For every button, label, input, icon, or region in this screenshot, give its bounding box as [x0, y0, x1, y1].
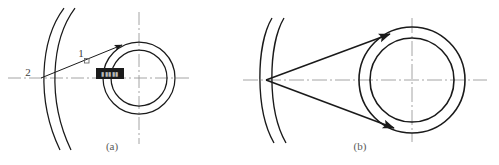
- figure-canvas: 1 2 ▮▮▮▮▮ (a) (b): [0, 0, 499, 165]
- panel-b: (b): [243, 18, 487, 153]
- panel-b-caption: (b): [354, 140, 367, 153]
- panel-b-arc-inner: [272, 18, 286, 143]
- panel-a-arc-outer: [44, 8, 64, 150]
- panel-a-arc-inner: [55, 8, 75, 150]
- panel-a-redacted-text: ▮▮▮▮▮: [101, 71, 119, 77]
- panel-a-reference-label-1: 1: [78, 47, 84, 59]
- technical-figure: 1 2 ▮▮▮▮▮ (a) (b): [0, 0, 499, 165]
- panel-a-caption: (a): [106, 140, 119, 153]
- panel-b-tangent-line-upper: [266, 34, 390, 80]
- panel-b-tangent-line-lower: [266, 80, 394, 128]
- panel-a: 1 2 ▮▮▮▮▮ (a): [8, 8, 190, 153]
- panel-a-reference-label-2: 2: [25, 66, 31, 78]
